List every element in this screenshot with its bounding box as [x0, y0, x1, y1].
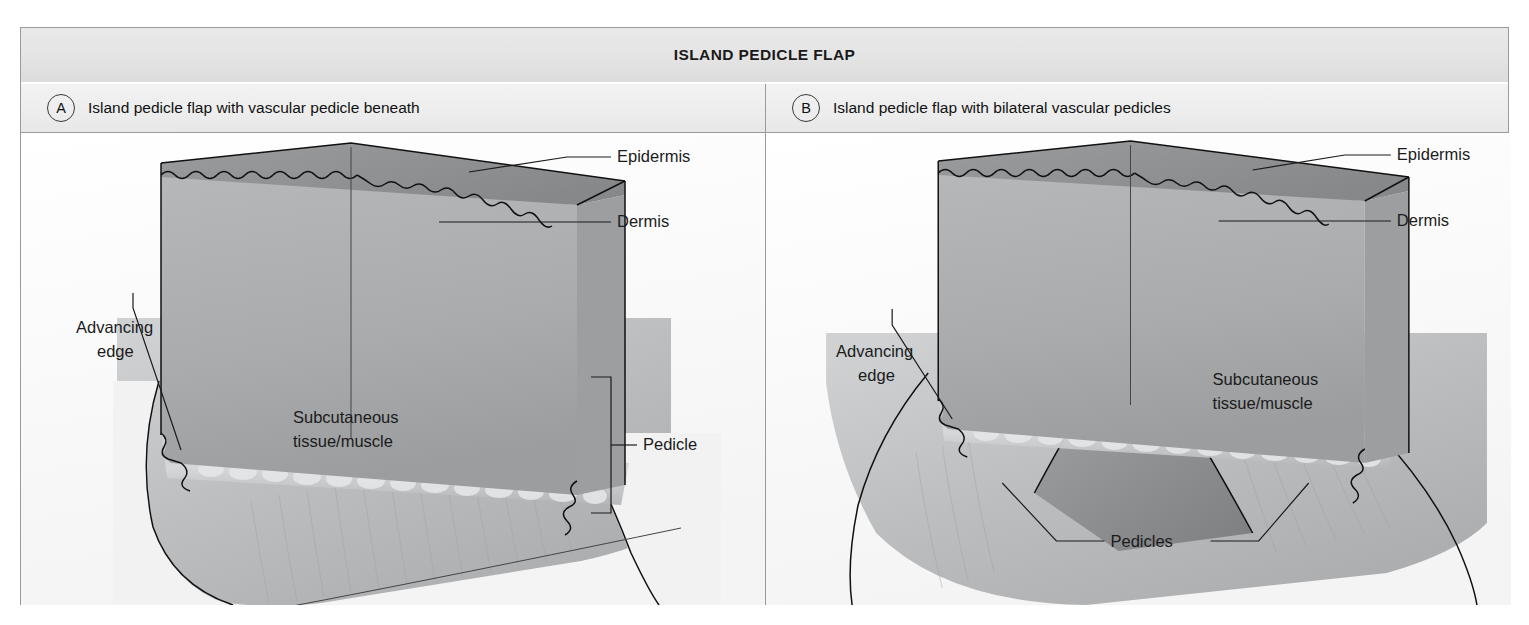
figure-title: ISLAND PEDICLE FLAP — [674, 46, 856, 64]
island-pedicle-flap-diagram-a: Epidermis Dermis Advancing edge Subcutan… — [21, 133, 765, 605]
panel-caption-b: Island pedicle flap with bilateral vascu… — [833, 99, 1171, 117]
label-subcutaneous-b-line1: Subcutaneous — [1213, 370, 1319, 388]
panel-header-row: A Island pedicle flap with vascular pedi… — [21, 84, 1508, 133]
panel-header-b: B Island pedicle flap with bilateral vas… — [765, 84, 1510, 132]
island-pedicle-flap-diagram-b: Epidermis Dermis Advancing edge Ped — [766, 133, 1511, 605]
label-pedicle-a-text: Pedicle — [643, 435, 697, 453]
panel-header-a: A Island pedicle flap with vascular pedi… — [21, 84, 765, 132]
panel-badge-b: B — [792, 94, 820, 122]
label-dermis-b-text: Dermis — [1397, 211, 1449, 229]
illustration-row: Epidermis Dermis Advancing edge Subcutan… — [21, 133, 1508, 605]
label-epidermis-b-text: Epidermis — [1397, 145, 1470, 163]
label-dermis-a-text: Dermis — [617, 212, 669, 230]
label-pedicles-b-text: Pedicles — [1110, 532, 1172, 550]
illustration-panel-a: Epidermis Dermis Advancing edge Subcutan… — [21, 133, 765, 605]
illustration-panel-b: Epidermis Dermis Advancing edge Ped — [765, 133, 1511, 605]
panel-caption-a: Island pedicle flap with vascular pedicl… — [88, 99, 420, 117]
label-advancing-edge-a-line2: edge — [97, 342, 134, 360]
figure-bottom-caption — [22, 612, 1502, 625]
label-epidermis-a-text: Epidermis — [617, 147, 690, 165]
figure-panel: ISLAND PEDICLE FLAP A Island pedicle fla… — [20, 27, 1509, 605]
label-subcutaneous-a-line1: Subcutaneous — [293, 408, 399, 426]
figure-title-bar: ISLAND PEDICLE FLAP — [21, 28, 1508, 83]
label-advancing-edge-b-line2: edge — [858, 366, 895, 384]
label-subcutaneous-a-line2: tissue/muscle — [293, 432, 393, 450]
label-advancing-edge-b-line1: Advancing — [836, 342, 913, 360]
panel-badge-a: A — [47, 94, 75, 122]
label-advancing-edge-a-line1: Advancing — [76, 318, 153, 336]
label-subcutaneous-b-line2: tissue/muscle — [1213, 394, 1313, 412]
